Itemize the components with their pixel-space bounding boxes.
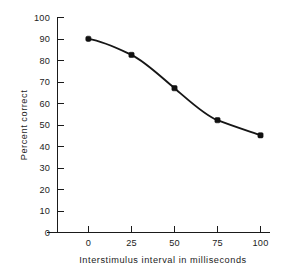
data-point-50	[172, 86, 177, 91]
data-series-markers	[86, 36, 263, 138]
x-axis-tick-labels: 0 25 50 75 100	[86, 238, 269, 248]
data-point-0	[86, 36, 91, 41]
data-point-75	[215, 118, 220, 123]
figure-container: 100 90 80 70 60 50 40 30 20 10 0 0 25 50…	[0, 0, 282, 274]
y-tick-label-10: 10	[39, 206, 50, 216]
y-axis-tick-labels: 100 90 80 70 60 50 40 30 20 10 0	[34, 13, 50, 238]
y-axis-ticks	[58, 18, 65, 212]
x-tick-label-75: 75	[212, 238, 223, 248]
y-tick-label-30: 30	[39, 163, 50, 173]
y-tick-label-90: 90	[39, 34, 50, 44]
y-tick-label-80: 80	[39, 56, 50, 66]
x-tick-label-50: 50	[169, 238, 180, 248]
x-axis-ticks	[89, 226, 261, 233]
x-tick-label-100: 100	[253, 238, 269, 248]
x-tick-label-25: 25	[126, 238, 137, 248]
x-axis-title: Interstimulus interval in milliseconds	[79, 255, 246, 265]
y-tick-label-60: 60	[39, 99, 50, 109]
x-tick-label-0: 0	[86, 238, 91, 248]
data-point-100	[258, 133, 263, 138]
y-tick-label-70: 70	[39, 77, 50, 87]
data-point-25	[129, 52, 134, 57]
y-tick-label-0: 0	[45, 228, 50, 238]
y-tick-label-50: 50	[39, 120, 50, 130]
y-tick-label-100: 100	[34, 13, 50, 23]
y-tick-label-40: 40	[39, 142, 50, 152]
y-tick-label-20: 20	[39, 185, 50, 195]
y-axis-title: Percent correct	[19, 90, 29, 161]
line-chart: 100 90 80 70 60 50 40 30 20 10 0 0 25 50…	[0, 0, 282, 274]
